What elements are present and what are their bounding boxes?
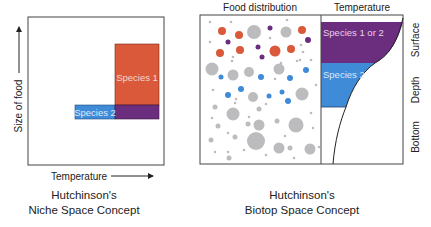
species2-food-dot [267,94,272,99]
small-food-dot [310,59,313,62]
biotop-caption-line1: Hutchinson's [269,189,335,201]
small-food-dot [227,151,230,154]
large-food-dot [248,92,258,102]
large-food-dot [206,63,219,76]
small-food-dot [232,56,235,59]
overlap-food-dot [256,45,261,50]
hutchinson-diagram: Species 1 Species 2 Size of food Tempera… [0,0,431,227]
depth-label-depth: Depth [410,77,421,104]
small-food-dot [209,138,214,143]
small-food-dot [212,89,215,92]
species2-food-dot [238,86,244,92]
small-food-dot [275,119,280,124]
large-food-dot [274,64,285,75]
small-food-dot [209,41,212,44]
species1-food-dot [218,27,226,35]
large-food-dot [274,143,285,154]
species2-label: Species 2 [74,107,116,118]
species1-food-dot [298,26,306,34]
species1-food-dot [235,31,243,39]
small-food-dot [243,149,246,152]
small-food-dot [310,112,313,115]
species1-food-dot [216,49,224,57]
band-mid-label: Species 2 [323,69,365,80]
species2-food-dot [258,74,264,80]
large-food-dot [227,108,240,121]
small-food-dot [318,146,321,149]
species2-food-dot [280,90,285,95]
x-axis-label: Temperature [51,171,108,182]
large-food-dot [254,120,265,131]
small-food-dot [296,60,299,63]
species2-food-dot [225,92,231,98]
large-food-dot [281,27,292,38]
large-food-dot [296,88,309,101]
small-food-dot [257,107,262,112]
species1-food-dot [270,46,281,57]
small-food-dot [227,156,232,161]
temperature-header: Temperature [334,2,391,13]
overlap-food-dot [260,55,265,60]
species2-food-dot [287,75,293,81]
large-food-dot [247,25,261,39]
small-food-dot [284,135,287,138]
depth-label-surface: Surface [410,22,421,57]
small-food-dot [211,117,214,120]
small-food-dot [269,37,272,40]
small-food-dot [299,59,302,62]
overlap-niche-rect [115,105,159,119]
small-food-dot [312,127,315,130]
small-food-dot [315,84,318,87]
small-food-dot [265,154,268,157]
small-food-dot [216,124,221,129]
small-food-dot [288,146,293,151]
biotop-caption-line2: Biotop Space Concept [245,204,360,216]
species1-food-dot [287,45,295,53]
overlap-food-dot [226,40,231,45]
small-food-dot [227,132,230,135]
large-food-dot [247,132,265,150]
food-distribution-header: Food distribution [223,2,297,13]
small-food-dot [300,44,303,47]
small-food-dot [209,21,212,24]
small-food-dot [293,157,296,160]
small-food-dot [265,103,268,106]
y-axis-label: Size of food [13,80,24,133]
small-food-dot [231,60,234,63]
small-food-dot [248,116,251,119]
species2-food-dot [285,98,291,104]
overlap-food-dot [268,26,273,31]
small-food-dot [302,51,305,54]
large-food-dot [289,118,304,133]
species1-label: Species 1 [116,72,158,83]
small-food-dot [286,19,289,22]
small-food-dot [274,78,277,81]
small-food-dot [246,122,251,127]
small-food-dot [234,102,237,105]
depth-label-bottom: Bottom [410,121,421,153]
small-food-dot [235,98,238,101]
small-food-dot [213,105,218,110]
overlap-food-dot [305,37,311,43]
large-food-dot [244,67,254,77]
niche-caption-line1: Hutchinson's [51,189,117,201]
species2-food-dot [219,75,224,80]
small-food-dot [230,21,233,24]
species2-food-dot [303,67,309,73]
small-food-dot [214,151,217,154]
niche-space-panel: Species 1 Species 2 Size of food Tempera… [13,17,164,216]
biotop-space-panel: Food distribution Temperature Species 1 … [200,2,421,216]
large-food-dot [305,144,316,155]
small-food-dot [233,135,238,140]
large-food-dot [228,70,239,81]
species1-food-dot [236,46,244,54]
niche-caption-line2: Niche Space Concept [28,204,140,216]
band-top-label: Species 1 or 2 [323,27,384,38]
